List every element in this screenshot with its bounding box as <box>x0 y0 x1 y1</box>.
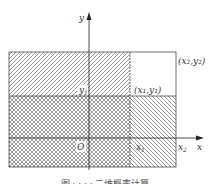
region-forward-hatch <box>9 52 130 96</box>
origin-label: O <box>77 142 85 152</box>
x-axis-arrow-icon <box>196 136 204 141</box>
region-crosshatch <box>9 96 130 167</box>
x2-label: x2 <box>178 142 187 153</box>
y-axis-arrow-icon <box>87 12 92 20</box>
x-axis-label: x <box>197 142 202 152</box>
figure-caption: 图 · · · · 二维概率计算 <box>61 178 150 184</box>
point-x2-y2-label: (x₂,y₂) <box>178 56 206 66</box>
probability-diagram: y x O y1 x1 x2 (x₁,y₁) (x₂,y₂) 图 · · · ·… <box>0 0 210 184</box>
y-axis-label: y <box>78 13 85 23</box>
region-back-hatch <box>130 96 176 167</box>
point-x1-y1-label: (x₁,y₁) <box>134 85 162 95</box>
